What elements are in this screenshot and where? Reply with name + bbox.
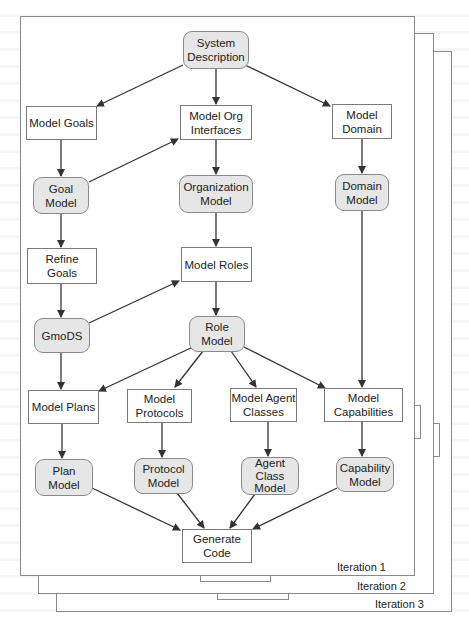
node-agent-class-model: Agent Class Model xyxy=(241,457,299,495)
node-model-capabilities: Model Capabilities xyxy=(324,388,403,422)
node-model-goals: Model Goals xyxy=(26,106,97,140)
node-role-model: Role Model xyxy=(189,316,245,352)
node-model-plans: Model Plans xyxy=(28,390,99,424)
node-model-org-interfaces: Model Org Interfaces xyxy=(180,105,252,140)
node-goal-model: Goal Model xyxy=(33,177,89,214)
node-model-protocols: Model Protocols xyxy=(127,389,192,423)
node-system-description: System Description xyxy=(183,31,249,69)
node-gmods: GmoDS xyxy=(34,318,90,353)
node-protocol-model: Protocol Model xyxy=(134,458,193,494)
node-model-agent-classes: Model Agent Classes xyxy=(230,388,297,422)
node-plan-model: Plan Model xyxy=(35,459,93,496)
node-model-roles: Model Roles xyxy=(181,247,252,282)
node-model-domain: Model Domain xyxy=(332,104,392,139)
node-generate-code: Generate Code xyxy=(182,529,252,563)
node-organization-model: Organization Model xyxy=(179,175,253,213)
node-capability-model: Capability Model xyxy=(336,457,394,492)
node-refine-goals: Refine Goals xyxy=(27,248,97,284)
node-domain-model: Domain Model xyxy=(335,174,389,211)
